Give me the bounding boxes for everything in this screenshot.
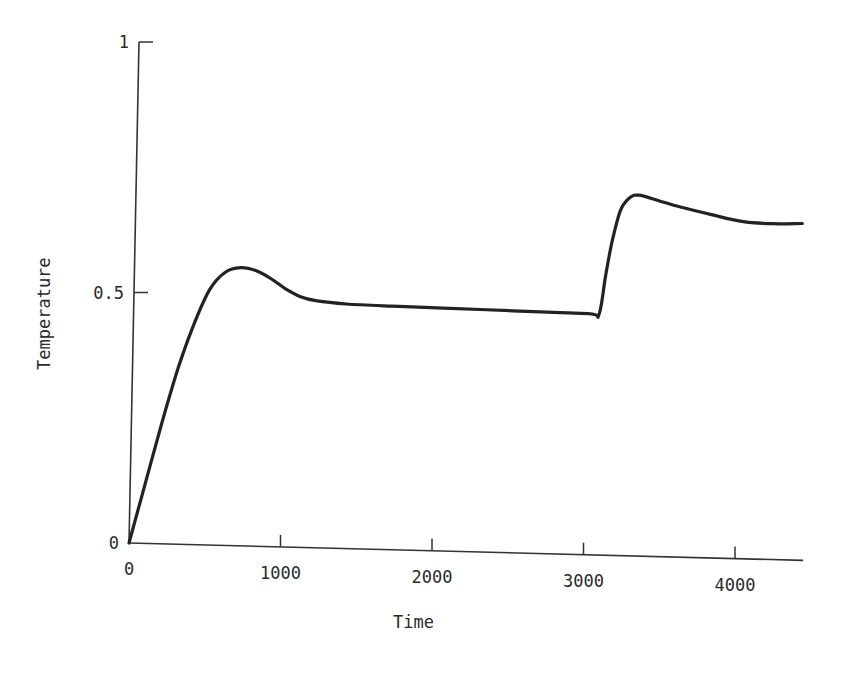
x-tick-label: 2000: [412, 567, 453, 587]
temperature-curve: [129, 195, 802, 543]
x-tick-label: 0: [124, 559, 134, 579]
x-axis-title: Time: [393, 612, 434, 632]
y-tick-label: 0.5: [93, 283, 124, 303]
axes: [129, 42, 803, 560]
x-axis-line: [129, 543, 803, 560]
y-axis-title: Temperature: [34, 257, 54, 370]
tick-labels: 0100020003000400000.51: [93, 32, 755, 595]
y-tick-label: 0: [109, 533, 119, 553]
x-tick-label: 4000: [715, 575, 756, 595]
y-tick-label: 1: [119, 32, 129, 52]
x-tick-label: 3000: [563, 571, 604, 591]
temperature-chart: 0100020003000400000.51 Time Temperature: [0, 0, 857, 678]
axis-ticks: [134, 42, 735, 559]
x-tick-label: 1000: [260, 563, 301, 583]
